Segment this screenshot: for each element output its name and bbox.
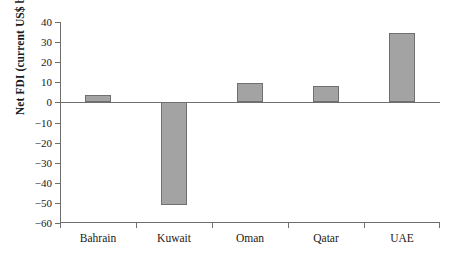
y-tick-mark (55, 183, 60, 184)
y-tick-label: −40 (14, 177, 52, 189)
y-tick-label: 30 (14, 36, 52, 48)
y-tick-mark (55, 163, 60, 164)
x-tick-label-qatar: Qatar (313, 232, 339, 244)
y-tick-label: 0 (14, 96, 52, 108)
x-tick-label-uae: UAE (390, 232, 414, 244)
x-tick-label-kuwait: Kuwait (157, 232, 191, 244)
y-tick-mark (55, 42, 60, 43)
y-tick-mark (55, 123, 60, 124)
y-tick-mark (55, 143, 60, 144)
y-tick-label: −60 (14, 217, 52, 229)
y-tick-mark (55, 223, 60, 224)
y-tick-mark (55, 22, 60, 23)
bar-kuwait[interactable] (161, 102, 187, 205)
x-axis-end-cap (439, 223, 440, 228)
y-tick-label: −20 (14, 137, 52, 149)
y-tick-mark (55, 203, 60, 204)
x-tick-mark (364, 223, 365, 228)
y-tick-mark (55, 62, 60, 63)
bar-oman[interactable] (237, 83, 263, 102)
x-tick-mark (212, 223, 213, 228)
figure-container: Net FDI (current US$ billions) 403020100… (0, 0, 451, 265)
y-tick-label: −30 (14, 157, 52, 169)
x-tick-label-oman: Oman (236, 232, 264, 244)
bar-bahrain[interactable] (85, 95, 111, 102)
y-tick-label: 20 (14, 56, 52, 68)
x-tick-mark (136, 223, 137, 228)
x-axis-end-cap (60, 223, 61, 228)
x-axis-line (60, 222, 440, 223)
y-tick-mark (55, 102, 60, 103)
y-tick-label: 40 (14, 16, 52, 28)
plot-area (60, 22, 440, 223)
y-tick-label: 10 (14, 76, 52, 88)
x-tick-label-bahrain: Bahrain (80, 232, 116, 244)
bar-qatar[interactable] (313, 86, 339, 102)
y-tick-label: −10 (14, 117, 52, 129)
y-tick-mark (55, 82, 60, 83)
y-tick-label: −50 (14, 197, 52, 209)
bar-uae[interactable] (389, 33, 415, 102)
x-tick-mark (288, 223, 289, 228)
